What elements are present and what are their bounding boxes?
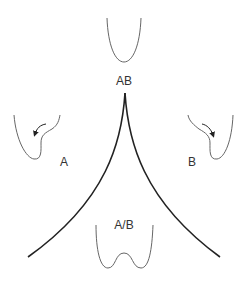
right-tilted-well-curve [188,115,233,159]
label-left-a: A [60,156,68,168]
cusp-diagram [0,0,243,283]
left-well-arrow-icon [35,124,46,134]
left-tilted-well-curve [14,115,60,159]
label-bottom-a-b: A/B [114,219,133,231]
label-top-ab: AB [116,75,132,87]
label-right-b: B [188,156,196,168]
cusp-curve-right-branch [125,93,220,257]
right-well-arrow-icon [202,124,213,135]
cusp-curve-left-branch [28,93,125,257]
top-single-well-curve [107,18,141,62]
